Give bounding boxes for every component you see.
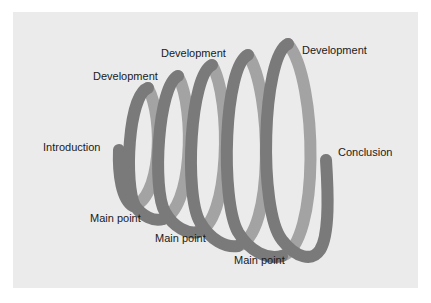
label-main-point-2: Main point — [155, 232, 206, 244]
label-introduction: Introduction — [43, 141, 100, 153]
label-development-1: Development — [93, 70, 158, 82]
label-development-2: Development — [161, 47, 226, 59]
label-conclusion: Conclusion — [338, 146, 392, 158]
label-main-point-3: Main point — [234, 254, 285, 266]
label-development-3: Development — [302, 44, 367, 56]
label-main-point-1: Main point — [90, 212, 141, 224]
